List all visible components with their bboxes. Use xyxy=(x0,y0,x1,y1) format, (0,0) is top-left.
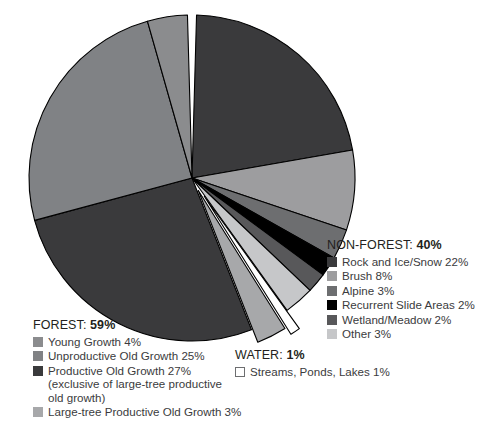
legend-swatch-icon xyxy=(327,286,337,296)
legend-item-label: Rock and Ice/Snow 22% xyxy=(342,255,468,268)
legend-item-label: Wetland/Meadow 2% xyxy=(342,313,451,326)
legend-item[interactable]: Productive Old Growth 27% (exclusive of … xyxy=(33,364,241,404)
legend-forest-title-name: FOREST: xyxy=(33,318,86,332)
legend-item[interactable]: Unproductive Old Growth 25% xyxy=(33,349,241,362)
legend-item-label: Unproductive Old Growth 25% xyxy=(48,349,205,362)
legend-item[interactable]: Young Growth 4% xyxy=(33,335,241,348)
legend-swatch-icon xyxy=(327,315,337,325)
legend-water: WATER: 1% Streams, Ponds, Lakes 1% xyxy=(235,348,390,379)
legend-swatch-icon xyxy=(33,351,43,361)
legend-nonforest-title-value: 40% xyxy=(416,238,441,252)
legend-forest: FOREST: 59% Young Growth 4%Unproductive … xyxy=(33,318,241,419)
legend-item[interactable]: Streams, Ponds, Lakes 1% xyxy=(235,365,390,378)
legend-water-items: Streams, Ponds, Lakes 1% xyxy=(235,365,390,378)
legend-swatch-icon xyxy=(33,407,43,417)
legend-item-label: Young Growth 4% xyxy=(48,335,141,348)
legend-item[interactable]: Alpine 3% xyxy=(327,284,475,297)
legend-item[interactable]: Rock and Ice/Snow 22% xyxy=(327,255,475,268)
legend-item-label: Brush 8% xyxy=(342,269,392,282)
legend-item-label: Large-tree Productive Old Growth 3% xyxy=(48,405,241,418)
legend-swatch-icon xyxy=(327,257,337,267)
legend-item[interactable]: Brush 8% xyxy=(327,269,475,282)
legend-water-title-value: 1% xyxy=(286,348,304,362)
legend-swatch-icon xyxy=(235,367,245,377)
legend-swatch-icon xyxy=(327,300,337,310)
legend-item[interactable]: Large-tree Productive Old Growth 3% xyxy=(33,405,241,418)
pie-slice-rock-and-ice-snow[interactable] xyxy=(192,15,353,178)
legend-nonforest-title: NON-FOREST: 40% xyxy=(327,238,475,252)
legend-item[interactable]: Recurrent Slide Areas 2% xyxy=(327,298,475,311)
legend-swatch-icon xyxy=(33,337,43,347)
legend-swatch-icon xyxy=(327,329,337,339)
legend-item-label: Alpine 3% xyxy=(342,284,394,297)
legend-item[interactable]: Other 3% xyxy=(327,327,475,340)
legend-forest-title-value: 59% xyxy=(90,318,115,332)
legend-item-label: Other 3% xyxy=(342,327,391,340)
legend-swatch-icon xyxy=(33,366,43,376)
legend-water-title-name: WATER: xyxy=(235,348,283,362)
legend-item-label: Streams, Ponds, Lakes 1% xyxy=(250,365,390,378)
legend-forest-items: Young Growth 4%Unproductive Old Growth 2… xyxy=(33,335,241,418)
legend-nonforest-items: Rock and Ice/Snow 22%Brush 8%Alpine 3%Re… xyxy=(327,255,475,340)
legend-item-label: Recurrent Slide Areas 2% xyxy=(342,298,475,311)
legend-swatch-icon xyxy=(327,271,337,281)
legend-item[interactable]: Wetland/Meadow 2% xyxy=(327,313,475,326)
legend-forest-title: FOREST: 59% xyxy=(33,318,241,332)
legend-water-title: WATER: 1% xyxy=(235,348,390,362)
legend-item-label: Productive Old Growth 27% (exclusive of … xyxy=(48,364,222,404)
legend-nonforest: NON-FOREST: 40% Rock and Ice/Snow 22%Bru… xyxy=(327,238,475,341)
legend-nonforest-title-name: NON-FOREST: xyxy=(327,238,413,252)
